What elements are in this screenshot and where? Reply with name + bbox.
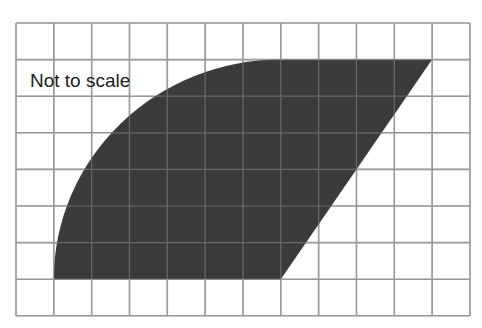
shape-diagram: Not to scale <box>0 0 482 328</box>
not-to-scale-label: Not to scale <box>30 70 130 91</box>
